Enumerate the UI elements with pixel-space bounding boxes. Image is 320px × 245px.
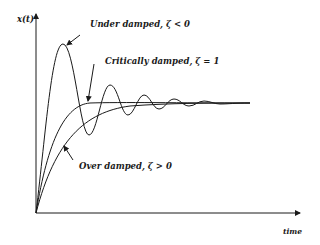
y-axis-label: x(t) [17,14,34,24]
over-damped-label: Over damped, ζ > 0 [79,161,172,171]
over-damped-arrow [64,146,73,160]
under-damped-curve [36,44,250,213]
x-axis-label: time [283,227,302,236]
under-damped-label: Under damped, ζ < 0 [90,19,190,29]
over-damped-curve [36,103,250,213]
critically-damped-curve [36,103,250,213]
critically-damped-arrow [88,64,94,101]
under-damped-arrow [67,35,80,45]
critically-damped-label: Critically damped, ζ = 1 [105,56,219,66]
plot-canvas [0,0,320,245]
damping-response-diagram: x(t) time Under damped, ζ < 0 Critically… [0,0,320,245]
